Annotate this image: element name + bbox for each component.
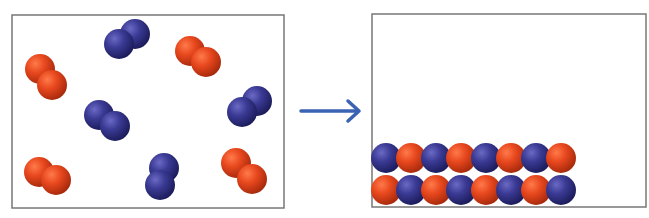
blue-atom	[100, 111, 130, 141]
blue-atom	[546, 175, 576, 205]
blue-atom	[104, 29, 134, 59]
red-atom	[191, 47, 221, 77]
blue-atom	[145, 170, 175, 200]
red-atom	[237, 164, 267, 194]
red-atom	[37, 70, 67, 100]
reaction-diagram	[0, 0, 649, 218]
blue-atom	[227, 97, 257, 127]
red-atom	[41, 165, 71, 195]
reaction-arrow-icon	[301, 101, 359, 121]
red-atom	[546, 143, 576, 173]
